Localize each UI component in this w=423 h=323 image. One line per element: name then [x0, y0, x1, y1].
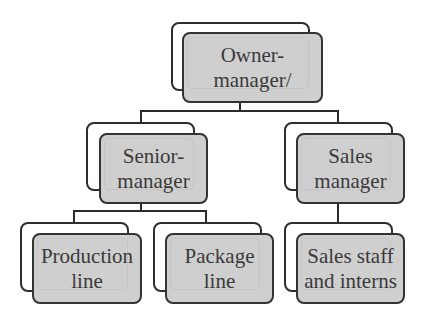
senior-node: Senior- manager [99, 133, 208, 204]
sales-manager-node-label: Sales manager [314, 144, 386, 194]
package-node: Package line [165, 233, 274, 304]
production-node-label: Production line [41, 244, 133, 294]
owner-node-label: Owner- manager/ [213, 43, 291, 93]
owner-node: Owner- manager/ [182, 32, 323, 103]
connector-level2-horizontal [73, 210, 207, 212]
sales-manager-node: Sales manager [296, 133, 405, 204]
package-node-label: Package line [185, 244, 255, 294]
production-node: Production line [32, 233, 142, 304]
sales-staff-node: Sales staff and interns [296, 233, 405, 304]
sales-staff-node-label: Sales staff and interns [304, 244, 397, 294]
connector-level1-horizontal [140, 110, 339, 112]
connector-sales-manager-to-staff [337, 202, 339, 223]
senior-node-label: Senior- manager [117, 144, 189, 194]
